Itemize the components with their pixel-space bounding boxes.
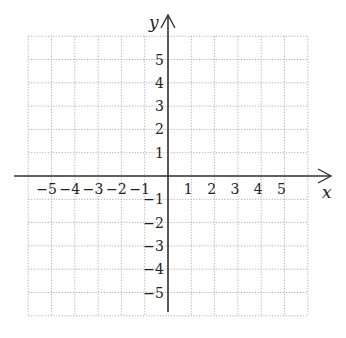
- x-tick-label: −3: [83, 181, 104, 197]
- x-tick-label: 4: [254, 181, 263, 197]
- y-axis-label: y: [148, 12, 159, 32]
- x-axis-label: x: [322, 182, 332, 202]
- y-tick-label: −3: [143, 238, 164, 254]
- y-tick-label: 3: [155, 98, 164, 114]
- x-tick-label: 3: [230, 181, 239, 197]
- x-tick-label: −5: [36, 181, 57, 197]
- x-tick-label: 5: [277, 181, 286, 197]
- x-tick-label: −4: [59, 181, 80, 197]
- y-tick-label: 1: [155, 145, 164, 161]
- coordinate-plane: x y −5−4−3−2−112345 54321−1−2−3−4−5: [0, 0, 346, 338]
- x-tick-label: −2: [106, 181, 127, 197]
- x-tick-label: 1: [184, 181, 193, 197]
- y-tick-label: −4: [143, 261, 164, 277]
- y-tick-label: 5: [155, 52, 164, 68]
- y-tick-label: −1: [143, 191, 164, 207]
- x-tick-label: 2: [207, 181, 216, 197]
- y-tick-label: −5: [143, 285, 164, 301]
- y-tick-label: 4: [155, 75, 164, 91]
- y-tick-label: −2: [143, 215, 164, 231]
- y-tick-label: 2: [155, 121, 164, 137]
